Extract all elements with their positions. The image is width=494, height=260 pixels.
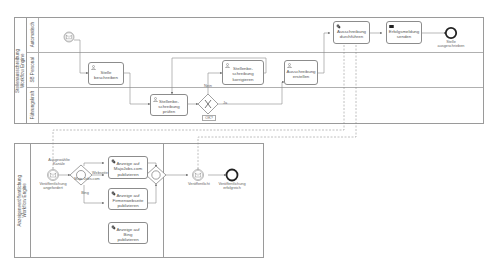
task-anzeige-bing[interactable]: Anzeige auf Bing publizieren [108,222,148,244]
gear-icon [111,225,116,230]
gear-icon [336,24,341,29]
send-message-icon [389,24,394,29]
flow-label-majojobs: Majo Jobs.com [72,177,102,181]
gateway-join [146,166,166,184]
gateway-split [70,165,92,185]
gateway-label-ok: OK? [202,115,216,121]
flow-label-nein: Nein [200,84,216,88]
end-event-bottom [227,170,238,181]
start-annotation: Ausgewählte Kanäle [45,158,73,167]
gateway-ok [198,94,218,114]
end-event-top [446,28,456,38]
intermediate-event-veroeffentlicht [193,170,204,181]
intermediate-event-label: Veröffentlicht [186,182,212,186]
flow-label-ja: Ja [220,101,230,105]
gear-icon [111,159,116,164]
start-event-top [64,32,74,42]
task-anzeige-majojobs[interactable]: Anzeige auf MajoJobs.com publizieren [108,156,148,179]
start-event-label: Veröffentlichung angefordert [36,182,70,191]
user-icon [287,63,292,68]
end-event-label-bottom: Veröffentlichung erfolgreich [216,182,248,191]
user-icon [91,65,96,70]
task-stelle-beschreiben[interactable]: Stelle beschreiben [88,62,124,85]
user-icon [225,63,230,68]
gear-icon [111,191,116,196]
task-erfolgsmeldung-senden[interactable]: Erfolgsmeldung senden [386,21,422,44]
flow-label-bing: Bing [80,191,90,195]
task-ausschreibung-erstellen[interactable]: Ausschreibung erstellen [284,60,318,85]
task-ausschreibung-durchfuehren[interactable]: Ausschreibung durchführen [333,21,370,44]
task-anzeige-firmenwebseite[interactable]: Anzeige auf Firmenwebseite publizieren [108,188,148,210]
start-event-bottom [48,170,59,181]
flow-label-webseite: Webseite [92,171,106,175]
task-stellenbeschreibung-korrigieren[interactable]: Stellenbe- schreibung korrigieren [222,60,264,85]
task-stellenbeschreibung-pruefen[interactable]: Stellenbe- schreibung prüfen [150,94,188,116]
end-event-label: Stelle ausgeschrieben [436,40,466,49]
user-icon [153,97,158,102]
